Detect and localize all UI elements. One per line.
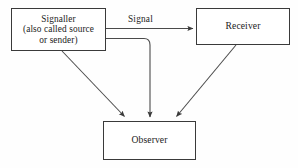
node-receiver: Receiver	[196, 8, 290, 45]
node-observer: Observer	[103, 121, 196, 160]
edge-signal-to-observer-elbow	[106, 39, 150, 118]
edge-signaller-to-observer	[62, 51, 125, 117]
edge-label-signal: Signal	[128, 14, 153, 24]
diagram-canvas: Signaller (also called source or sender)…	[0, 0, 298, 168]
node-signaller: Signaller (also called source or sender)	[11, 8, 106, 51]
edge-receiver-to-observer	[177, 45, 237, 117]
node-receiver-label: Receiver	[224, 21, 263, 32]
node-observer-label: Observer	[130, 135, 170, 146]
node-signaller-label: Signaller (also called source or sender)	[21, 14, 96, 45]
